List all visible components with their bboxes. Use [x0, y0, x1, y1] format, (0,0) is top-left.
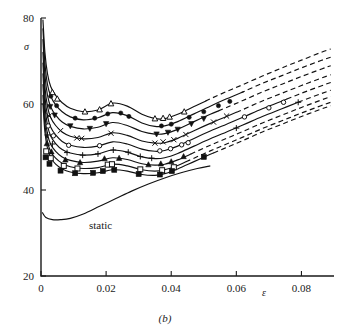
series-curve-1-dashed [205, 49, 330, 101]
data-point-filled-circle [127, 114, 131, 118]
series-curve-1-solid [43, 20, 205, 119]
y-tick-label: 80 [23, 12, 35, 24]
data-point-open-triangle-up [108, 101, 114, 106]
data-point-open-circle [281, 100, 285, 104]
data-point-open-triangle-up [152, 116, 158, 121]
y-tick-label: 40 [23, 184, 35, 196]
data-point-open-square [61, 163, 66, 168]
data-point-filled-square [43, 155, 48, 160]
data-point-open-circle [66, 143, 70, 147]
data-point-filled-square [112, 167, 117, 172]
data-point-open-circle [186, 141, 190, 145]
data-point-open-triangle-up [54, 96, 60, 101]
data-point-open-triangle-up [97, 107, 103, 112]
data-point-open-square [109, 162, 114, 167]
series-curve-5-dashed [287, 83, 331, 100]
data-point-filled-circle [187, 115, 191, 119]
data-point-open-triangle-up [167, 114, 173, 119]
x-tick-label: 0.04 [162, 282, 182, 294]
data-point-open-circle [158, 149, 162, 153]
data-point-filled-square [201, 154, 206, 159]
data-curves-group [43, 20, 331, 175]
data-point-open-square [75, 166, 80, 171]
data-point-open-triangle-up [160, 115, 166, 120]
data-point-open-circle [51, 134, 55, 138]
data-point-filled-square [136, 172, 141, 177]
data-point-open-circle [242, 115, 246, 119]
data-point-open-circle [267, 106, 271, 110]
data-point-filled-square [91, 170, 96, 175]
data-point-filled-triangle-up [158, 161, 163, 166]
series-curve-2-dashed [241, 57, 330, 92]
data-point-filled-circle [202, 110, 206, 114]
data-point-filled-square [100, 169, 105, 174]
data-point-filled-circle [216, 104, 220, 108]
data-point-filled-triangle-up [102, 156, 107, 161]
data-point-filled-square [58, 168, 63, 173]
y-tick-label: 20 [23, 270, 35, 282]
data-point-open-triangle-up [82, 109, 88, 114]
series-curve-3-solid [43, 40, 218, 135]
data-point-open-circle [97, 144, 101, 148]
series-curve-4-solid [43, 52, 236, 143]
x-tick-label: 0 [38, 282, 44, 294]
x-tick-label: 0.08 [292, 282, 312, 294]
data-point-open-circle [179, 143, 183, 147]
data-point-filled-triangle-up [44, 141, 49, 146]
data-point-plus [110, 147, 116, 153]
data-point-filled-circle [55, 104, 59, 108]
data-point-filled-circle [106, 112, 110, 116]
x-tick-label: 0.06 [227, 282, 247, 294]
data-point-open-square [138, 167, 143, 172]
data-point-open-circle [46, 124, 50, 128]
data-point-plus [95, 151, 101, 157]
data-point-filled-circle [169, 122, 173, 126]
figure-stress-strain: 2040608000.020.040.060.08 σ ε static (b) [0, 0, 348, 334]
series-curve-4-dashed [236, 75, 330, 113]
data-point-x-cross [160, 139, 165, 144]
data-point-filled-square [169, 169, 174, 174]
data-point-filled-triangle-down [201, 116, 206, 121]
static-curve [42, 166, 210, 220]
data-point-filled-circle [119, 111, 123, 115]
static-curve-annotation: static [89, 219, 112, 231]
chart-canvas: 2040608000.020.040.060.08 σ ε static (b) [0, 0, 348, 334]
data-point-plus [149, 155, 155, 161]
data-point-filled-square [47, 161, 52, 166]
data-point-x-cross [211, 119, 216, 124]
static-curve-group [42, 166, 210, 220]
data-point-filled-circle [73, 116, 77, 120]
data-point-filled-circle [49, 94, 53, 98]
series-curve-2-solid [43, 29, 244, 127]
data-point-x-cross [183, 132, 188, 137]
y-axis-label: σ [24, 41, 30, 52]
data-point-plus [80, 152, 86, 158]
data-point-open-triangle-up [181, 109, 187, 114]
data-point-filled-circle [228, 99, 232, 103]
data-point-filled-circle [159, 124, 163, 128]
data-point-open-square [44, 149, 49, 154]
x-tick-label: 0.02 [96, 282, 115, 294]
data-point-plus [233, 125, 239, 131]
data-point-filled-square [157, 172, 162, 177]
data-point-x-cross [58, 128, 63, 133]
figure-caption: (b) [159, 312, 172, 325]
y-tick-label: 60 [23, 98, 35, 110]
data-markers-group [43, 89, 301, 177]
data-point-filled-square [73, 171, 78, 176]
data-point-plus [295, 99, 301, 105]
x-axis-label: ε [262, 287, 266, 298]
data-point-filled-circle [93, 116, 97, 120]
data-point-open-square [48, 156, 53, 161]
data-point-plus [125, 149, 131, 155]
data-point-open-circle [168, 147, 172, 151]
data-point-plus [137, 153, 143, 159]
